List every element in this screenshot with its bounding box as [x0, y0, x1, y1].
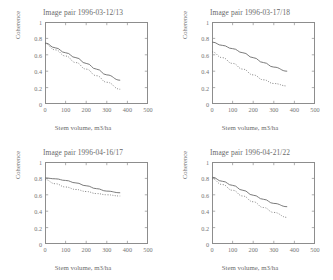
x-tick-label: 400: [290, 246, 299, 253]
x-tick-label: 100: [228, 246, 237, 253]
x-tick-label: 200: [82, 246, 91, 253]
x-tick-label: 500: [143, 106, 152, 113]
x-tick-label: 200: [82, 106, 91, 113]
x-tick-label: 0: [210, 106, 213, 113]
curve-solid: [45, 43, 120, 80]
y-tick-label: 0.4: [185, 208, 209, 215]
x-axis-label: Stem volume, m3/ha: [167, 124, 333, 131]
x-tick-label: 500: [310, 246, 319, 253]
x-tick-label: 200: [249, 246, 258, 253]
plot-area: [45, 162, 148, 244]
panel-1996-04-16-17: Image pair 1996-04-16/17 Coherence Stem …: [0, 140, 166, 280]
y-tick-label: 0: [185, 101, 209, 108]
panel-1996-04-21-22: Image pair 1996-04-21/22 Coherence Stem …: [167, 140, 333, 280]
x-tick-label: 200: [249, 106, 258, 113]
panel-title: Image pair 1996-04-16/17: [0, 148, 166, 157]
y-tick-label: 0.8: [185, 35, 209, 42]
panel-title: Image pair 1996-04-21/22: [167, 148, 333, 157]
x-tick-label: 400: [123, 106, 132, 113]
figure-four-panel-coherence: Image pair 1996-03-12/13 Coherence Stem …: [0, 0, 333, 280]
data-curves: [45, 162, 148, 244]
curve-solid: [212, 177, 287, 207]
plot-area: [212, 22, 315, 104]
x-tick-label: 300: [102, 106, 111, 113]
x-tick-label: 300: [269, 106, 278, 113]
x-tick-label: 300: [269, 246, 278, 253]
panel-1996-03-17-18: Image pair 1996-03-17/18 Coherence Stem …: [167, 0, 333, 140]
y-axis-label: Coherence: [14, 0, 24, 58]
x-axis-label: Stem volume, m3/ha: [0, 264, 166, 271]
x-tick-label: 400: [290, 106, 299, 113]
y-tick-label: 0.4: [18, 208, 42, 215]
y-axis-label: Coherence: [181, 0, 191, 58]
y-tick-label: 0.8: [185, 175, 209, 182]
panel-1996-03-12-13: Image pair 1996-03-12/13 Coherence Stem …: [0, 0, 166, 140]
y-tick-label: 1: [185, 19, 209, 26]
y-tick-label: 1: [185, 159, 209, 166]
y-tick-label: 0.8: [18, 35, 42, 42]
y-tick-label: 0.6: [185, 191, 209, 198]
x-tick-label: 100: [228, 106, 237, 113]
y-tick-label: 0.4: [185, 68, 209, 75]
x-tick-label: 300: [102, 246, 111, 253]
curve-solid: [45, 178, 120, 193]
x-tick-label: 500: [310, 106, 319, 113]
y-tick-label: 0.2: [185, 224, 209, 231]
x-tick-label: 400: [123, 246, 132, 253]
data-curves: [212, 162, 315, 244]
y-tick-label: 0.2: [185, 84, 209, 91]
curve-dotted: [212, 52, 287, 86]
x-tick-label: 500: [143, 246, 152, 253]
y-tick-label: 0: [18, 101, 42, 108]
y-tick-label: 0: [18, 241, 42, 248]
y-tick-label: 1: [18, 159, 42, 166]
curve-dotted: [212, 179, 287, 218]
panel-title: Image pair 1996-03-12/13: [0, 8, 166, 17]
y-tick-label: 0.6: [18, 51, 42, 58]
y-tick-label: 0.2: [18, 84, 42, 91]
y-tick-label: 0: [185, 241, 209, 248]
data-curves: [45, 22, 148, 104]
plot-area: [45, 22, 148, 104]
x-axis-label: Stem volume, m3/ha: [167, 264, 333, 271]
data-curves: [212, 22, 315, 104]
curve-solid: [212, 42, 287, 71]
x-axis-label: Stem volume, m3/ha: [0, 124, 166, 131]
curve-dotted: [45, 44, 120, 90]
y-tick-label: 0.6: [18, 191, 42, 198]
y-tick-label: 0.2: [18, 224, 42, 231]
x-tick-label: 0: [210, 246, 213, 253]
x-tick-label: 100: [61, 246, 70, 253]
y-tick-label: 0.4: [18, 68, 42, 75]
y-tick-label: 1: [18, 19, 42, 26]
x-tick-label: 100: [61, 106, 70, 113]
panel-title: Image pair 1996-03-17/18: [167, 8, 333, 17]
curve-dotted: [45, 180, 120, 196]
y-tick-label: 0.6: [185, 51, 209, 58]
x-tick-label: 0: [43, 106, 46, 113]
x-tick-label: 0: [43, 246, 46, 253]
y-tick-label: 0.8: [18, 175, 42, 182]
plot-area: [212, 162, 315, 244]
